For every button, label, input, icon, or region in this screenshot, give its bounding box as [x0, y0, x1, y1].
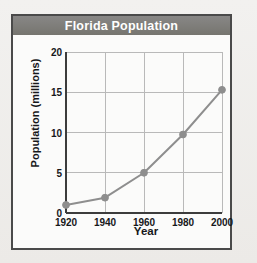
chart-title: Florida Population: [65, 19, 178, 33]
data-point-marker: [180, 131, 187, 138]
x-tick-label: 1960: [133, 217, 155, 228]
data-point-marker: [102, 194, 109, 201]
y-axis-label: Population (millions): [29, 43, 41, 183]
figure-container: Florida Population Population (millions)…: [11, 14, 232, 250]
x-tick-label: 1980: [172, 217, 194, 228]
y-tick-label: 5: [56, 167, 62, 178]
data-point-marker: [63, 202, 70, 209]
page-background: Florida Population Population (millions)…: [0, 0, 257, 263]
line-chart-svg: [66, 52, 222, 213]
gridlines: [66, 52, 222, 213]
x-tick-label: 1940: [94, 217, 116, 228]
plot-area: 05101520 19201940196019802000: [66, 52, 222, 213]
data-point-marker: [219, 86, 226, 93]
x-tick-label: 2000: [211, 217, 233, 228]
data-point-marker: [141, 169, 148, 176]
chart-title-band: Florida Population: [13, 16, 230, 35]
y-tick-label: 20: [51, 47, 62, 58]
chart-area: Population (millions) Year 05101520 1920…: [13, 35, 230, 248]
y-tick-label: 10: [51, 127, 62, 138]
y-tick-label: 15: [51, 87, 62, 98]
x-tick-label: 1920: [55, 217, 77, 228]
